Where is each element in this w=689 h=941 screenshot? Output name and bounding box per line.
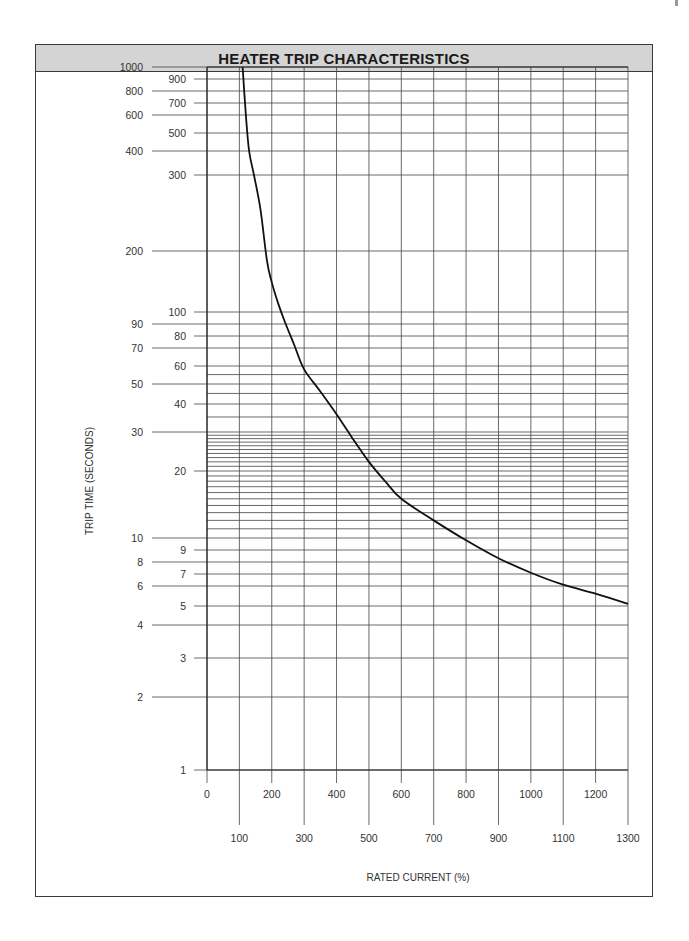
x-tick-label: 700: [425, 832, 443, 844]
y-tick-label: 100: [168, 306, 186, 318]
y-tick-label: 50: [131, 378, 143, 390]
y-tick-label: 60: [174, 360, 186, 372]
horizontal-gridlines: [207, 67, 628, 770]
x-tick-label: 1200: [584, 788, 608, 800]
y-tick-label: 600: [125, 109, 143, 121]
y-axis-title: TRIP TIME (SECONDS): [84, 427, 95, 535]
y-tick-label: 7: [180, 568, 186, 580]
y-tick-label: 500: [168, 127, 186, 139]
y-tick-label: 8: [137, 556, 143, 568]
x-tick-label: 400: [328, 788, 346, 800]
chart-canvas: 1000800600400200907050301086429007005003…: [0, 0, 689, 941]
x-tick-label: 1100: [552, 832, 575, 844]
x-tick-label: 600: [393, 788, 411, 800]
x-axis-title: RATED CURRENT (%): [367, 872, 470, 883]
y-tick-label: 700: [168, 97, 186, 109]
y-tick-label: 5: [180, 600, 186, 612]
tick-labels: 1000800600400200907050301086429007005003…: [120, 61, 640, 845]
y-tick-label: 90: [131, 318, 143, 330]
y-tick-label: 800: [125, 85, 143, 97]
x-tick-label: 900: [490, 832, 508, 844]
x-tick-label: 0: [204, 788, 210, 800]
y-tick-label: 20: [174, 465, 186, 477]
y-tick-label: 900: [168, 73, 186, 85]
vertical-gridlines: [207, 67, 628, 770]
y-tick-label: 200: [125, 245, 143, 257]
y-tick-label: 4: [137, 619, 143, 631]
y-tick-label: 10: [131, 532, 143, 544]
y-tick-label: 70: [131, 342, 143, 354]
series-group: [243, 67, 628, 604]
y-tick-label: 2: [137, 691, 143, 703]
y-tick-label: 300: [168, 169, 186, 181]
x-tick-label: 800: [457, 788, 475, 800]
trip-curve-line: [243, 67, 628, 604]
x-tick-label: 500: [360, 832, 378, 844]
y-tick-label: 1: [180, 764, 186, 776]
y-tick-label: 40: [174, 398, 186, 410]
y-tick-label: 1000: [120, 61, 144, 73]
x-tick-label: 200: [263, 788, 281, 800]
y-tick-label: 80: [174, 330, 186, 342]
x-tick-label: 100: [231, 832, 249, 844]
y-tick-label: 30: [131, 426, 143, 438]
y-tick-label: 3: [180, 652, 186, 664]
x-tick-label: 1300: [616, 832, 640, 844]
x-tick-label: 300: [295, 832, 313, 844]
y-tick-label: 9: [180, 544, 186, 556]
y-tick-label: 400: [125, 145, 143, 157]
x-tick-label: 1000: [519, 788, 543, 800]
y-tick-label: 6: [137, 580, 143, 592]
